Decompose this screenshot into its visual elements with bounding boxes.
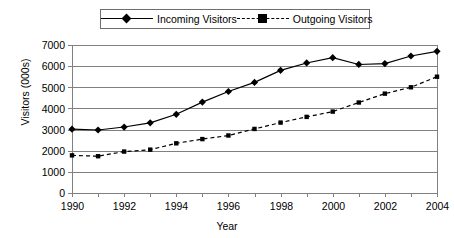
data-point-outgoing — [70, 153, 74, 157]
data-point-incoming — [433, 48, 440, 55]
data-point-incoming — [147, 119, 154, 126]
data-point-incoming — [277, 67, 284, 74]
data-point-outgoing — [331, 109, 335, 113]
data-point-incoming — [173, 111, 180, 118]
data-point-outgoing — [409, 85, 413, 89]
plot-area: 01000200030004000500060007000 1990199219… — [0, 0, 454, 238]
data-point-outgoing — [148, 147, 152, 151]
data-point-incoming — [303, 59, 310, 66]
x-tick-label: 2004 — [426, 200, 450, 212]
x-tick-label: 1990 — [61, 200, 85, 212]
data-point-incoming — [94, 126, 101, 133]
data-point-outgoing — [200, 137, 204, 141]
data-point-incoming — [251, 79, 258, 86]
y-tick-label: 1000 — [42, 166, 66, 178]
data-point-incoming — [121, 123, 128, 130]
y-tick-label: 0 — [59, 187, 65, 199]
data-point-outgoing — [278, 120, 282, 124]
data-point-incoming — [407, 52, 414, 59]
data-point-outgoing — [174, 141, 178, 145]
data-point-outgoing — [96, 154, 100, 158]
series-markers-outgoing-visitors — [70, 75, 439, 159]
y-tick-label: 7000 — [42, 39, 66, 51]
y-tick-marks — [68, 46, 72, 194]
y-tick-label: 6000 — [42, 60, 66, 72]
x-tick-label: 1998 — [270, 200, 294, 212]
x-tick-label: 1996 — [217, 200, 241, 212]
data-point-outgoing — [122, 149, 126, 153]
data-point-outgoing — [304, 115, 308, 119]
data-point-incoming — [68, 126, 75, 133]
data-point-outgoing — [357, 100, 361, 104]
x-tick-label: 2000 — [322, 200, 346, 212]
series-markers-incoming-visitors — [68, 48, 440, 134]
x-tick-labels: 19901992199419961998200020022004 — [61, 200, 450, 212]
series-line-outgoing-visitors — [72, 77, 437, 157]
data-point-outgoing — [435, 75, 439, 79]
data-point-incoming — [199, 98, 206, 105]
y-tick-label: 5000 — [42, 82, 66, 94]
data-point-outgoing — [383, 91, 387, 95]
data-point-outgoing — [252, 127, 256, 131]
visitors-line-chart: Incoming Visitors Outgoing Visitors Visi… — [0, 0, 454, 238]
y-tick-labels: 01000200030004000500060007000 — [42, 39, 66, 199]
x-tick-label: 1992 — [113, 200, 137, 212]
y-tick-label: 3000 — [42, 124, 66, 136]
data-point-incoming — [381, 60, 388, 67]
data-point-incoming — [329, 54, 336, 61]
data-point-incoming — [225, 88, 232, 95]
y-tick-label: 4000 — [42, 103, 66, 115]
x-tick-label: 2002 — [374, 200, 398, 212]
data-point-outgoing — [226, 133, 230, 137]
y-tick-label: 2000 — [42, 145, 66, 157]
x-tick-label: 1994 — [165, 200, 189, 212]
